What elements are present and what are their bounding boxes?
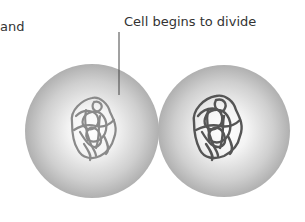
cell-division-diagram — [0, 0, 305, 222]
left-cell-body — [25, 64, 159, 198]
cell-divide-label: Cell begins to divide — [124, 15, 256, 28]
partial-label-left: and — [0, 20, 24, 33]
right-cell — [158, 65, 290, 197]
left-cell — [25, 64, 159, 198]
right-cell-body — [158, 65, 290, 197]
